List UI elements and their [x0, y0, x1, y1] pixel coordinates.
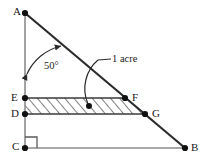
vertex-label-g: G: [152, 108, 160, 119]
vertex-dot-f: [122, 95, 128, 101]
figure-canvas: [0, 0, 206, 162]
region-marker-dot: [86, 103, 92, 109]
area-callout-label: 1 acre: [112, 54, 137, 64]
vertex-label-b: B: [191, 142, 199, 153]
geometry-figure: A B C D E F G 50° 1 acre: [0, 0, 206, 162]
vertex-dot-g: [142, 111, 148, 117]
vertex-dot-b: [182, 145, 188, 151]
edge-ab: [25, 13, 185, 148]
vertex-label-a: A: [13, 6, 21, 17]
vertex-label-f: F: [132, 92, 138, 103]
vertex-dot-a: [22, 10, 28, 16]
vertex-label-d: D: [11, 108, 19, 119]
vertex-dot-d: [22, 111, 28, 117]
vertex-dot-e: [22, 95, 28, 101]
angle-label-50deg: 50°: [44, 61, 59, 71]
vertex-label-e: E: [11, 92, 18, 103]
vertex-label-c: C: [12, 141, 20, 152]
vertex-dot-c: [22, 145, 28, 151]
callout-leader-stub: [98, 59, 111, 60]
